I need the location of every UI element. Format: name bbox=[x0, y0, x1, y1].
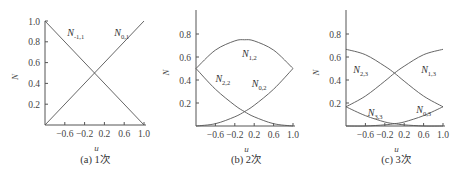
axes-frame bbox=[196, 10, 295, 126]
y-tick-label: 0.2 bbox=[28, 100, 40, 110]
x-tick-label: 1.0 bbox=[138, 129, 150, 139]
chart-panel-c: 0.20.40.60.8−0.6−0.20.20.61.0uNN2,3N1,3N… bbox=[311, 10, 449, 166]
curve-label: N0,1 bbox=[113, 27, 129, 40]
y-tick-label: 0.4 bbox=[28, 79, 40, 89]
y-tick-label: 0.8 bbox=[28, 37, 40, 47]
x-tick-label: 0.2 bbox=[248, 130, 260, 140]
y-tick-label: 0.8 bbox=[329, 30, 341, 40]
chart-panel-a: 0.20.40.60.81.0−0.6−0.20.20.61.0uNN-1,1N… bbox=[10, 17, 150, 167]
x-tick-label: −0.2 bbox=[226, 130, 243, 140]
y-tick-label: 0.6 bbox=[329, 53, 341, 63]
x-tick-label: −0.2 bbox=[76, 129, 93, 139]
y-tick-label: 0.4 bbox=[329, 76, 341, 86]
x-tick-label: −0.6 bbox=[56, 129, 73, 139]
x-tick-label: −0.6 bbox=[357, 130, 374, 140]
y-tick-label: 0.6 bbox=[28, 58, 40, 68]
y-tick-label: 0.8 bbox=[179, 30, 191, 40]
x-tick-label: 0.6 bbox=[268, 130, 280, 140]
x-tick-label: 0.2 bbox=[398, 130, 410, 140]
curve-label: N2,2 bbox=[214, 73, 230, 86]
x-tick-label: −0.2 bbox=[376, 130, 393, 140]
y-axis-label: N bbox=[10, 73, 20, 81]
x-tick-label: 0.6 bbox=[118, 129, 130, 139]
axes-frame bbox=[346, 10, 445, 126]
panel-caption: (b) 2次 bbox=[231, 153, 262, 166]
x-tick-label: 0.6 bbox=[418, 130, 430, 140]
y-tick-label: 0.2 bbox=[329, 99, 341, 109]
x-tick-label: 1.0 bbox=[437, 130, 449, 140]
panel-caption: (c) 3次 bbox=[381, 153, 412, 166]
curve-n-2-3- bbox=[346, 49, 443, 107]
curve-n-1-3- bbox=[346, 49, 443, 107]
y-tick-label: 0.2 bbox=[179, 99, 191, 109]
curve-label: N-1,1 bbox=[66, 27, 84, 40]
y-axis-label: N bbox=[311, 69, 321, 77]
x-tick-label: 1.0 bbox=[287, 130, 299, 140]
curve-label: N0,3 bbox=[415, 104, 431, 117]
curve-n-2-2- bbox=[196, 69, 293, 127]
x-axis-label: u bbox=[244, 144, 249, 154]
x-axis-label: u bbox=[94, 143, 99, 153]
curve-label: N2,3 bbox=[352, 64, 368, 77]
basis-function-figure: 0.20.40.60.81.0−0.6−0.20.20.61.0uNN-1,1N… bbox=[0, 0, 462, 177]
y-tick-label: 0.6 bbox=[179, 53, 191, 63]
x-tick-label: −0.6 bbox=[207, 130, 224, 140]
panel-caption: (a) 1次 bbox=[80, 153, 111, 166]
curve-label: N1,2 bbox=[241, 48, 257, 61]
y-tick-label: 0.4 bbox=[179, 76, 191, 86]
chart-panel-b: 0.20.40.60.8−0.6−0.20.20.61.0uNN1,2N2,2N… bbox=[161, 10, 299, 166]
curve-label: N0,2 bbox=[251, 78, 267, 91]
y-tick-label: 1.0 bbox=[28, 17, 40, 27]
x-tick-label: 0.2 bbox=[98, 129, 110, 139]
x-axis-label: u bbox=[394, 144, 399, 154]
curve-n-0-2- bbox=[196, 69, 293, 127]
curve-label: N3,3 bbox=[367, 107, 383, 120]
y-axis-label: N bbox=[161, 69, 171, 77]
curve-label: N1,3 bbox=[420, 64, 436, 77]
